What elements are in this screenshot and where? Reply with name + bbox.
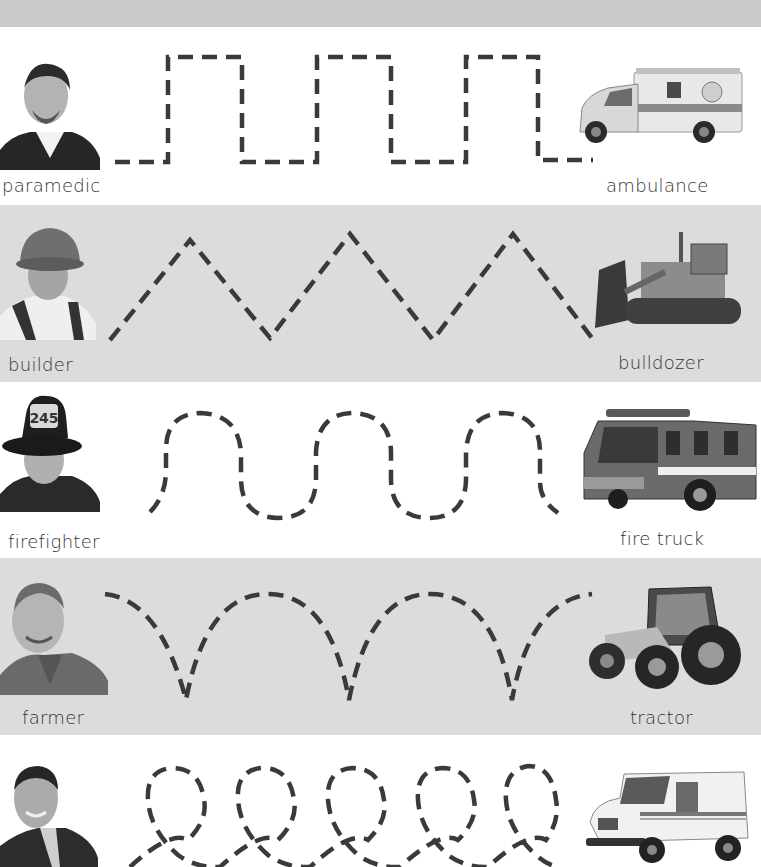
farmer-photo [0, 575, 110, 695]
trace-square-wave[interactable] [115, 57, 593, 162]
person-label-farmer: farmer [22, 707, 84, 728]
fire-truck-photo [574, 405, 761, 515]
mail-carrier-photo [0, 764, 100, 867]
vehicle-label-fire-truck: fire truck [620, 528, 704, 549]
person-label-firefighter: firefighter [8, 531, 100, 552]
person-label-builder: builder [8, 354, 73, 375]
mail-truck-photo [580, 768, 760, 867]
builder-photo [0, 224, 98, 340]
vehicle-label-ambulance: ambulance [606, 175, 709, 196]
bulldozer-photo [595, 232, 745, 332]
ambulance-photo [572, 68, 750, 148]
paramedic-photo [0, 58, 102, 170]
tractor-photo [585, 575, 745, 693]
trace-loops[interactable] [130, 766, 560, 867]
vehicle-label-tractor: tractor [630, 707, 693, 728]
top-band [0, 0, 761, 27]
trace-wave[interactable] [150, 413, 558, 518]
vehicle-label-bulldozer: bulldozer [618, 352, 704, 373]
helmet-badge-number: 245 [29, 410, 58, 426]
person-label-paramedic: paramedic [2, 175, 101, 196]
firefighter-photo: 245 [0, 394, 102, 512]
